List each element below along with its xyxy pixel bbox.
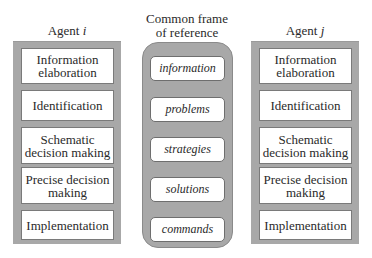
- agent-j-stage-schematic-decision-making: Schematic decision making: [259, 127, 352, 164]
- common-frame-panel: information problems strategies solution…: [142, 42, 233, 248]
- agent-i-stage-identification: Identification: [21, 90, 114, 121]
- stage-label: Schematic decision making: [261, 133, 351, 159]
- stage-label: Schematic decision making: [23, 133, 113, 159]
- stage-label: Identification: [270, 99, 340, 112]
- common-item-strategies: strategies: [150, 137, 225, 162]
- common-item-commands: commands: [150, 217, 225, 242]
- agent-i-stage-implementation: Implementation: [21, 210, 114, 240]
- common-frame-title-line1: Common frame: [132, 12, 242, 26]
- agent-j-title: Agent j: [251, 24, 359, 38]
- agent-j-stage-implementation: Implementation: [259, 210, 352, 240]
- agent-i-stage-precise-decision-making: Precise decision making: [21, 167, 114, 204]
- common-frame-title-line2: of reference: [132, 26, 242, 40]
- common-item-problems: problems: [150, 97, 225, 122]
- agent-i-stage-schematic-decision-making: Schematic decision making: [21, 127, 114, 164]
- agent-i-panel: Information elaboration Identification S…: [13, 41, 121, 244]
- agent-j-title-var: j: [321, 23, 325, 38]
- agent-j-panel: Information elaboration Identification S…: [251, 41, 359, 244]
- stage-label: Identification: [32, 99, 102, 112]
- common-item-solutions: solutions: [150, 177, 225, 202]
- agent-j-title-prefix: Agent: [286, 23, 321, 38]
- agent-i-title: Agent i: [13, 24, 121, 38]
- stage-label: Implementation: [264, 219, 346, 232]
- agent-j-stage-information-elaboration: Information elaboration: [259, 48, 352, 84]
- stage-label: Precise decision making: [23, 173, 113, 199]
- agent-j-stage-identification: Identification: [259, 90, 352, 121]
- agent-i-title-prefix: Agent: [48, 23, 83, 38]
- agent-i-title-var: i: [83, 23, 87, 38]
- common-item-information: information: [150, 56, 225, 81]
- stage-label: Precise decision making: [261, 173, 351, 199]
- common-frame-title: Common frame of reference: [132, 12, 242, 40]
- stage-label: Information elaboration: [271, 53, 341, 79]
- agent-i-stage-information-elaboration: Information elaboration: [21, 48, 114, 84]
- stage-label: Implementation: [26, 219, 108, 232]
- stage-label: Information elaboration: [33, 53, 103, 79]
- agent-j-stage-precise-decision-making: Precise decision making: [259, 167, 352, 204]
